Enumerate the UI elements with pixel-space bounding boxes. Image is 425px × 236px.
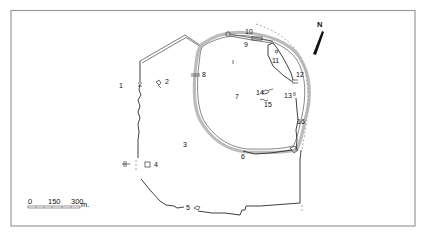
- site-label-6: 6: [241, 153, 245, 160]
- site-label-11: 11: [272, 57, 279, 64]
- north-arrow-icon: [313, 31, 324, 55]
- site-label-15: 15: [264, 101, 272, 108]
- site-label-9: 9: [244, 41, 248, 48]
- north-label: N: [317, 20, 322, 29]
- feature-12-13-gates: [292, 80, 298, 95]
- site-label-5: 5: [186, 204, 190, 211]
- site-label-4: 4: [154, 161, 158, 168]
- site-label-2: 2: [165, 78, 169, 85]
- site-label-8: 8: [202, 71, 206, 78]
- site-label-7: 7: [235, 93, 239, 100]
- site-label-13: 13: [284, 92, 292, 99]
- feature-4-structure: [122, 160, 150, 170]
- map-frame: [11, 11, 415, 227]
- north-arrow: N: [313, 20, 324, 55]
- site-label-central-mark: ı: [232, 58, 234, 65]
- site-label-14: 14: [256, 89, 264, 96]
- site-label-1: 1: [119, 82, 123, 89]
- site-label-16: 16: [297, 118, 305, 125]
- scale-bar: 0 150 300 m.: [28, 197, 89, 209]
- site-labels: 12345678910111213141516ı: [119, 28, 305, 211]
- northeast-complex: [226, 24, 308, 155]
- feature-2-ruin: [156, 80, 161, 88]
- scale-unit: m.: [81, 200, 89, 209]
- site-plan-map: N 0 150 300 m. 12345678910111213141516ı: [0, 0, 425, 236]
- site-label-3: 3: [183, 141, 187, 148]
- site-label-10: 10: [245, 28, 253, 35]
- feature-5-structure: [194, 206, 200, 210]
- site-label-12: 12: [296, 71, 304, 78]
- scale-tick-150: 150: [48, 197, 61, 206]
- scale-tick-0: 0: [28, 197, 32, 206]
